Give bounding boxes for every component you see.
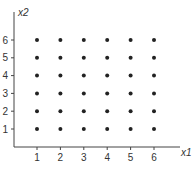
data-point: [35, 91, 39, 95]
y-tick-label: 1: [2, 124, 8, 135]
data-point: [129, 109, 133, 113]
data-point: [58, 74, 62, 78]
data-point: [58, 91, 62, 95]
data-point: [58, 56, 62, 60]
data-point: [105, 38, 109, 42]
data-point: [105, 109, 109, 113]
data-point: [35, 56, 39, 60]
data-point: [152, 109, 156, 113]
x-tick-label: 4: [104, 152, 110, 163]
data-point: [35, 74, 39, 78]
y-tick-label: 5: [2, 52, 8, 63]
data-point: [105, 56, 109, 60]
data-point: [105, 74, 109, 78]
data-point: [105, 127, 109, 131]
data-point: [152, 56, 156, 60]
data-point: [35, 127, 39, 131]
data-point: [129, 91, 133, 95]
y-tick-label: 6: [2, 35, 8, 46]
x-tick-label: 1: [34, 152, 40, 163]
x-tick-label: 3: [81, 152, 87, 163]
y-tick-label: 4: [2, 70, 8, 81]
y-tick-label: 3: [2, 88, 8, 99]
x-tick-label: 6: [151, 152, 157, 163]
data-point: [82, 109, 86, 113]
data-point: [35, 38, 39, 42]
y-tick-label: 2: [2, 106, 8, 117]
data-point: [152, 38, 156, 42]
data-point: [129, 74, 133, 78]
data-point: [82, 127, 86, 131]
x-axis-label: x1: [180, 147, 192, 158]
x-tick-label: 5: [128, 152, 134, 163]
data-point: [58, 109, 62, 113]
data-point: [58, 38, 62, 42]
data-point: [35, 109, 39, 113]
data-point: [105, 91, 109, 95]
data-point: [129, 127, 133, 131]
data-point: [129, 56, 133, 60]
x-tick-label: 2: [58, 152, 64, 163]
data-point: [129, 38, 133, 42]
data-point: [152, 74, 156, 78]
data-point: [82, 91, 86, 95]
data-point: [58, 127, 62, 131]
scatter-chart: x2 x1 123456123456: [0, 0, 194, 177]
data-point: [82, 74, 86, 78]
data-point: [152, 127, 156, 131]
data-point: [82, 38, 86, 42]
data-point: [82, 56, 86, 60]
y-axis-label: x2: [17, 7, 29, 18]
data-point: [152, 91, 156, 95]
